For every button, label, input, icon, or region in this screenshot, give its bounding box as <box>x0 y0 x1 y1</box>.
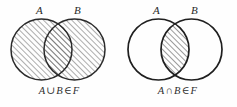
set-label-b: B <box>191 5 198 16</box>
caption-relation: ∈ <box>63 85 73 96</box>
caption-right-operand: B <box>174 85 181 96</box>
caption-family: F <box>191 85 198 96</box>
caption-operator: ∩ <box>164 85 174 96</box>
venn-panel-union: A B A∪B∈F <box>0 0 118 107</box>
caption-family: F <box>73 85 80 96</box>
set-label-a: A <box>153 5 160 16</box>
set-label-b: B <box>74 5 81 16</box>
caption-relation: ∈ <box>181 85 191 96</box>
caption-union: A∪B∈F <box>0 85 118 97</box>
caption-right-operand: B <box>56 85 63 96</box>
union-shaded-region <box>11 19 105 80</box>
caption-operator: ∪ <box>45 85 56 96</box>
venn-panel-intersection: A B A∩B∈F <box>118 0 237 107</box>
venn-diagram-figure: A B A∪B∈F A B <box>0 0 237 107</box>
set-label-a: A <box>36 5 43 16</box>
caption-intersection: A∩B∈F <box>118 85 237 97</box>
